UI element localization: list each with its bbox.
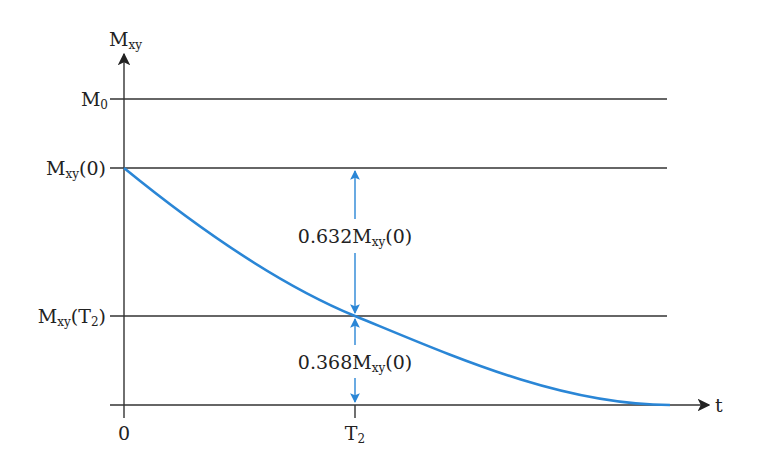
x-tick-zero: 0 bbox=[118, 422, 130, 444]
lower-annotation: 0.368Mxy(0) bbox=[298, 351, 412, 375]
m0-label: M0 bbox=[81, 88, 108, 112]
mxy0-label: Mxy(0) bbox=[46, 157, 106, 181]
mxyt2-label: Mxy(T2) bbox=[38, 305, 106, 329]
x-axis-title: t bbox=[715, 394, 723, 416]
x-tick-t2: T2 bbox=[345, 422, 365, 446]
decay-diagram: Mxy t M0 Mxy(0) Mxy(T2) 0 T2 0.632Mxy(0)… bbox=[0, 0, 759, 468]
y-axis-title: Mxy bbox=[109, 28, 142, 52]
upper-annotation: 0.632Mxy(0) bbox=[298, 225, 412, 249]
